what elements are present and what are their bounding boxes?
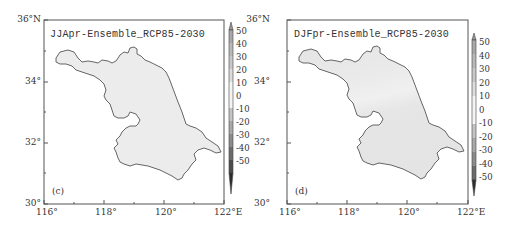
panel-title-d: DJFpr-Ensemble_RCP85-2030 [294, 29, 449, 40]
colorbar-d [472, 33, 476, 196]
x-tick-116: 116° [279, 207, 301, 217]
panel-label-d: (d) [295, 186, 308, 196]
x-tick-120: 120° [155, 207, 177, 217]
y-tick-32: 32° [254, 137, 270, 147]
panel-c: JJApr-Ensemble_RCP85-2030 (c) 36°N 34° 3… [0, 0, 256, 228]
y-tick-34: 34° [25, 76, 41, 86]
x-tick-122: 122°E [457, 207, 485, 217]
y-tick-36: 36°N [246, 14, 270, 24]
panel-title-c: JJApr-Ensemble_RCP85-2030 [50, 29, 205, 40]
y-tick-36: 36°N [17, 14, 41, 24]
x-tick-118: 118° [338, 207, 360, 217]
x-tick-122: 122°E [214, 207, 242, 217]
panel-label-c: (c) [52, 186, 64, 196]
x-tick-118: 118° [95, 207, 117, 217]
colorbar-c [229, 22, 233, 194]
colorbar-labels-d: 50 40 30 20 10 0 -10 -20 -30 -40 -50 [479, 36, 493, 185]
x-tick-116: 116° [36, 207, 58, 217]
panel-d: DJFpr-Ensemble_RCP85-2030 (d) 36°N 34° 3… [243, 0, 499, 228]
y-tick-32: 32° [25, 137, 41, 147]
x-tick-120: 120° [398, 207, 420, 217]
y-tick-30: 30° [254, 198, 270, 208]
y-tick-34: 34° [254, 76, 270, 86]
